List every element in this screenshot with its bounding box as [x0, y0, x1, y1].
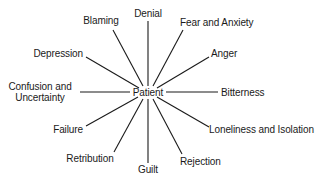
- center-label: Patient: [133, 87, 163, 98]
- label-guilt: Guilt: [138, 164, 158, 175]
- spoke-depression: [86, 57, 139, 88]
- label-rejection: Rejection: [180, 156, 221, 167]
- spoke-retribution: [114, 99, 143, 152]
- spoke-fear: [153, 30, 183, 86]
- label-denial: Denial: [134, 8, 162, 19]
- spoke-rejection: [153, 99, 182, 154]
- label-confusion-line2: Uncertainty: [15, 92, 64, 103]
- label-fear-and-anxiety: Fear and Anxiety: [180, 17, 253, 28]
- label-failure: Failure: [53, 124, 83, 135]
- label-depression: Depression: [33, 48, 83, 59]
- spoke-anger: [157, 57, 209, 88]
- label-blaming: Blaming: [83, 15, 118, 26]
- label-confusion-line1: Confusion and: [8, 81, 71, 92]
- patient-emotions-diagram: Patient Denial Blaming Fear and Anxiety …: [0, 0, 321, 183]
- label-loneliness-and-isolation: Loneliness and Isolation: [209, 124, 314, 135]
- label-bitterness: Bitterness: [221, 87, 264, 98]
- label-anger: Anger: [211, 48, 237, 59]
- spoke-blaming: [113, 30, 143, 86]
- label-retribution: Retribution: [66, 153, 113, 164]
